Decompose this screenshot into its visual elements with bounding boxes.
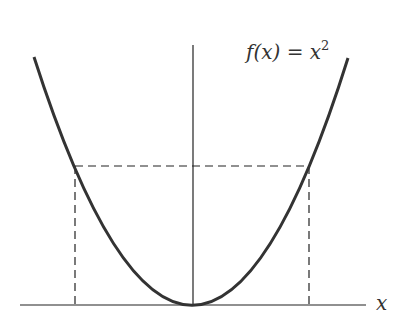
x-axis-label: x bbox=[376, 291, 387, 315]
function-label: f(x) = x2 bbox=[244, 38, 329, 64]
parabola-diagram: f(x) = x2 x bbox=[0, 0, 401, 333]
parabola-curve bbox=[34, 57, 348, 305]
